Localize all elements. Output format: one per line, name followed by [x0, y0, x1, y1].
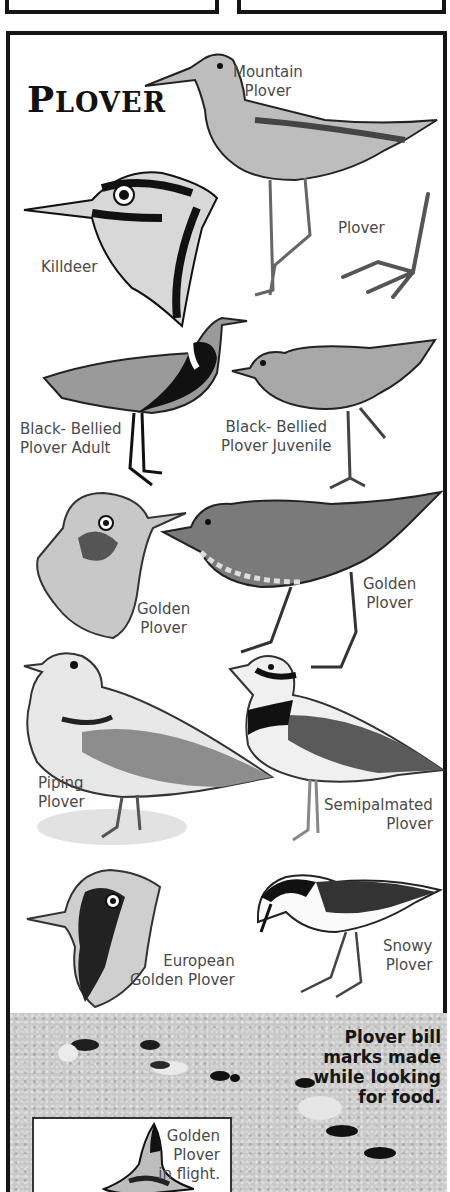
- bill-marks-caption: Plover bill marks made while looking for…: [314, 1027, 442, 1107]
- plover-foot-illustration: [338, 192, 433, 302]
- killdeer-illustration: [22, 168, 222, 328]
- semipalmated-plover-label: SemipalmatedPlover: [324, 796, 433, 834]
- black-bellied-plover-juvenile-label: Black- BelliedPlover Juvenile: [221, 418, 332, 456]
- golden-plover-label: GoldenPlover: [363, 575, 416, 613]
- black-bellied-plover-adult-label: Black- BelliedPlover Adult: [20, 420, 122, 458]
- piping-plover-label: PipingPlover: [38, 774, 85, 812]
- snowy-plover-label: SnowyPlover: [383, 937, 432, 975]
- top-right-panel: [237, 0, 446, 14]
- top-left-panel: [5, 0, 219, 14]
- killdeer-label: Killdeer: [41, 258, 97, 277]
- golden-plover-flight-inset: Golden Plover in flight.: [32, 1117, 232, 1192]
- black-bellied-plover-adult-illustration: [42, 313, 252, 488]
- mountain-plover-label: MountainPlover: [233, 63, 303, 101]
- golden-plover-flight-caption: Golden Plover in flight.: [158, 1127, 220, 1184]
- plover-foot-label: Plover: [338, 219, 385, 238]
- european-golden-plover-label: EuropeanGolden Plover: [130, 952, 235, 990]
